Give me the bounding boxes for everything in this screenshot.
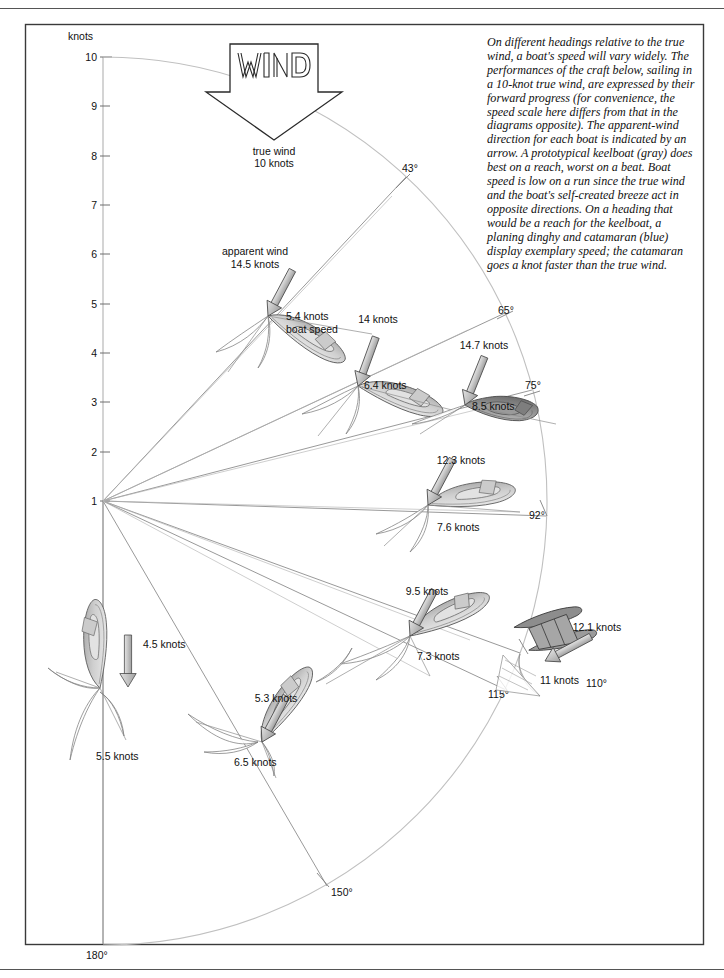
boat-speed-value-43: 5.4 knots (286, 310, 329, 322)
angle-label-43: 43° (402, 162, 418, 174)
angle-label-110: 110° (586, 677, 607, 689)
sails-115 (316, 636, 410, 682)
boat-speed-title-43: boat speed (286, 323, 338, 335)
speed-axis: 10 9 8 7 6 5 4 3 2 1 knots (68, 30, 112, 944)
boat-speed-value-115: 7.3 knots (417, 650, 460, 662)
true-wind-arrow: true wind 10 knots (206, 44, 342, 169)
axis-tick-7: 7 (91, 199, 97, 211)
true-wind-label-1: true wind (253, 145, 296, 157)
apparent-wind-value-110: 12.1 knots (573, 621, 621, 633)
sails-180 (48, 668, 124, 760)
axis-tick-2: 2 (91, 446, 97, 458)
boat-speed-value-180: 5.5 knots (96, 750, 139, 762)
boat-group-180: 4.5 knots 5.5 knots (48, 599, 186, 762)
apparent-wind-value-75: 14.7 knots (460, 339, 508, 351)
heading-rays (103, 177, 546, 944)
apparent-wind-value-65: 14 knots (358, 313, 398, 325)
axis-tick-8: 8 (91, 150, 97, 162)
axis-tick-4: 4 (91, 347, 97, 359)
boat-group-150: 5.3 knots 6.5 knots (188, 660, 320, 778)
apparent-wind-value-150: 5.3 knots (255, 692, 298, 704)
axis-tick-3: 3 (91, 396, 97, 408)
angle-label-75: 75° (525, 379, 541, 391)
axis-tick-9: 9 (91, 100, 97, 112)
boat-group-92: 12.3 knots 7.6 knots (376, 454, 520, 552)
apparent-wind-value-92: 12.3 knots (437, 454, 485, 466)
apparent-wind-arrow-180 (120, 635, 136, 687)
axis-tick-10: 10 (85, 51, 97, 63)
figure-page: 10 9 8 7 6 5 4 3 2 1 knots (0, 0, 724, 978)
angle-label-180: 180° (86, 949, 108, 961)
axis-title-knots: knots (68, 30, 93, 42)
axis-tick-1: 1 (91, 495, 97, 507)
angle-ticks (317, 174, 547, 887)
boat-speed-value-65: 6.4 knots (364, 379, 407, 391)
apparent-wind-value-180: 4.5 knots (143, 638, 186, 650)
sails-43 (216, 316, 270, 368)
apparent-wind-value-43: 14.5 knots (231, 258, 279, 270)
axis-tick-6: 6 (91, 248, 97, 260)
angle-labels: 43° 65° 75° 92° 110° 115° 150° 180° (86, 162, 607, 961)
angle-label-65: 65° (498, 304, 514, 316)
axis-tick-5: 5 (91, 298, 97, 310)
true-wind-label-2: 10 knots (254, 157, 294, 169)
boat-speed-value-92: 7.6 knots (437, 521, 480, 533)
figure-caption: On different headings relative to the tr… (487, 36, 701, 272)
boat-group-43: apparent wind 14.5 knots 5.4 knots boat … (216, 245, 372, 372)
apparent-wind-value-115: 9.5 knots (406, 585, 449, 597)
angle-label-92: 92° (529, 509, 545, 521)
sails-65 (302, 386, 360, 434)
apparent-wind-title-43: apparent wind (222, 245, 288, 257)
boat-speed-value-75: 8.5 knots (472, 400, 515, 412)
boat-speed-value-150: 6.5 knots (234, 756, 277, 768)
boat-speed-value-110: 11 knots (540, 674, 579, 686)
angle-label-150: 150° (331, 886, 353, 898)
